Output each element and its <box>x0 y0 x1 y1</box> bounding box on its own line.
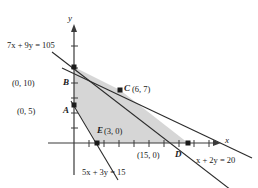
vertex-marker-C <box>118 88 123 93</box>
vertex-label-C-letter: C <box>124 84 130 93</box>
y-axis-label: y <box>68 14 72 23</box>
x-axis-label: x <box>225 136 229 145</box>
equation-label-7x9y: 7x + 9y = 105 <box>7 41 55 50</box>
vertex-marker-D <box>186 141 191 146</box>
feasible-region-figure: 7x + 9y = 105 (0, 10) B (0, 5) A C (6, 7… <box>0 0 258 188</box>
vertex-marker-E <box>95 141 100 146</box>
vertex-marker-A <box>72 103 77 108</box>
vertex-label-C-coords: (6, 7) <box>132 85 150 94</box>
feasible-region-polygon <box>74 67 188 143</box>
vertex-marker-B <box>72 65 77 70</box>
vertex-label-A-coords: (0, 5) <box>17 107 35 116</box>
equation-label-x2y: x + 2y = 20 <box>196 156 235 165</box>
vertex-label-B-letter: B <box>63 78 69 87</box>
vertex-label-D-letter: D <box>175 150 182 159</box>
vertex-label-E-coords: (3, 0) <box>104 127 122 136</box>
vertex-label-E-letter: E <box>97 126 103 135</box>
equation-label-5x3y: 5x + 3y = 15 <box>82 168 126 177</box>
vertex-label-D-coords: (15, 0) <box>137 151 160 160</box>
y-axis-arrowhead <box>71 24 77 32</box>
vertex-label-B-coords: (0, 10) <box>12 79 35 88</box>
vertex-label-A-letter: A <box>63 106 69 115</box>
